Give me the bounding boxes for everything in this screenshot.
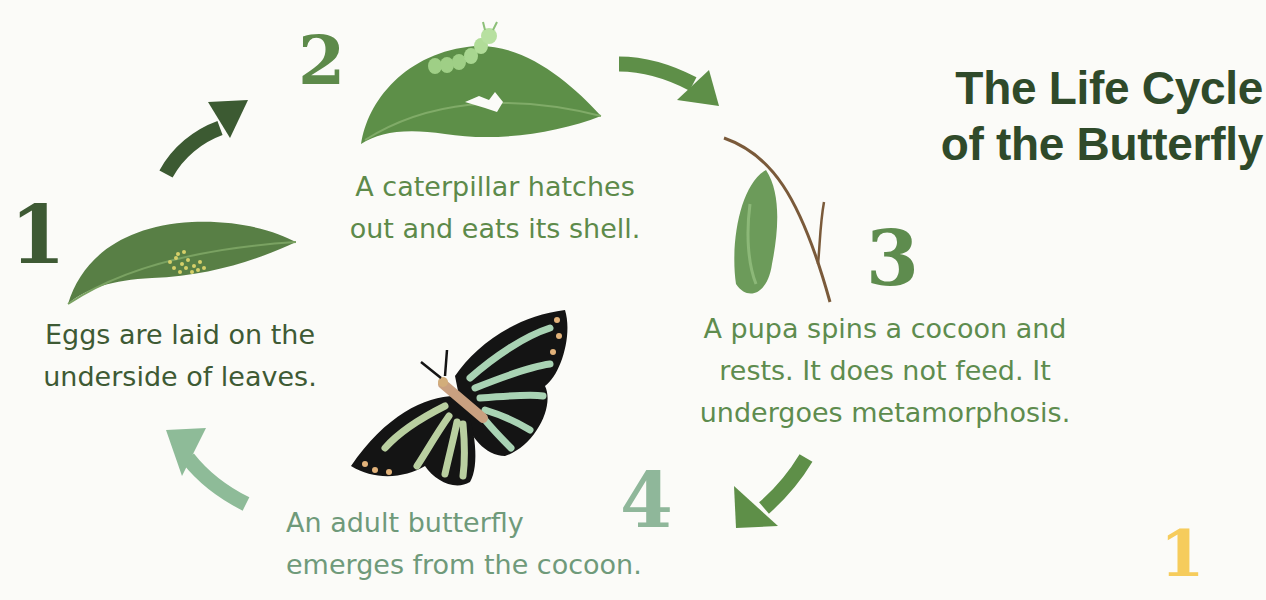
title-line-2: of the Butterfly (878, 116, 1263, 172)
page-number: 1 (1160, 516, 1205, 591)
stage-4-caption-line: emerges from the cocoon. (280, 544, 720, 586)
stage-3-caption-line: A pupa spins a cocoon and (650, 308, 1120, 350)
stage-1-number: 1 (10, 188, 66, 282)
arrow-2-to-3-icon (615, 50, 725, 110)
stage-1-caption-line: underside of leaves. (0, 356, 360, 398)
cocoon-on-twig-icon (720, 134, 840, 306)
leaf-with-caterpillar-icon (355, 22, 605, 152)
stage-4-caption-line: An adult butterfly (280, 502, 720, 544)
stage-1-caption-line: Eggs are laid on the (0, 314, 360, 356)
arrow-4-to-1-icon (162, 426, 257, 511)
stage-2-number: 2 (298, 20, 345, 100)
diagram-title: The Life Cycle of the Butterfly (878, 60, 1263, 172)
stage-4-caption: An adult butterfly emerges from the coco… (280, 502, 720, 586)
butterfly-icon (345, 306, 575, 496)
stage-3-caption: A pupa spins a cocoon and rests. It does… (650, 308, 1120, 434)
stage-3-caption-line: rests. It does not feed. It (650, 350, 1120, 392)
stage-3-number: 3 (866, 214, 919, 303)
title-line-1: The Life Cycle (878, 60, 1263, 116)
stage-1-caption: Eggs are laid on the underside of leaves… (0, 314, 360, 398)
arrow-3-to-4-icon (730, 452, 815, 532)
stage-2-caption: A caterpillar hatches out and eats its s… (300, 166, 690, 250)
stage-2-caption-line: out and eats its shell. (300, 208, 690, 250)
leaf-with-eggs-icon (62, 218, 302, 308)
stage-2-caption-line: A caterpillar hatches (300, 166, 690, 208)
stage-3-caption-line: undergoes metamorphosis. (650, 392, 1120, 434)
arrow-1-to-2-icon (158, 92, 253, 182)
